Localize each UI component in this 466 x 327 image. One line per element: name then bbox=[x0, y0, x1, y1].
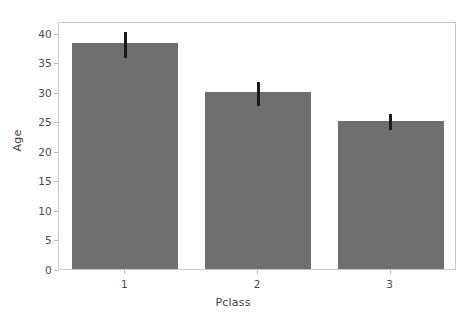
y-axis-tick-label: 25 bbox=[38, 116, 52, 128]
y-axis-tick-mark bbox=[54, 34, 58, 35]
y-axis-tick-label: 40 bbox=[38, 28, 52, 40]
error-bar bbox=[257, 82, 260, 106]
error-bar bbox=[124, 32, 127, 58]
y-axis-tick-label: 10 bbox=[38, 205, 52, 217]
y-axis-tick-marks bbox=[54, 0, 59, 327]
y-axis-tick-mark bbox=[54, 152, 58, 153]
x-axis-tick-mark bbox=[124, 270, 125, 274]
x-axis-tick-label: 1 bbox=[121, 278, 128, 290]
y-axis-tick-mark bbox=[54, 211, 58, 212]
x-axis-tick-mark bbox=[257, 270, 258, 274]
bar bbox=[338, 121, 444, 269]
y-axis-tick-label: 20 bbox=[38, 146, 52, 158]
y-axis-tick-mark bbox=[54, 240, 58, 241]
y-axis-tick-mark bbox=[54, 181, 58, 182]
bars-layer bbox=[59, 23, 455, 269]
plot-area bbox=[58, 22, 456, 270]
y-axis-tick-label: 5 bbox=[45, 234, 52, 246]
y-axis-tick-label: 15 bbox=[38, 175, 52, 187]
error-bar bbox=[389, 114, 392, 131]
y-axis-tick-mark bbox=[54, 63, 58, 64]
y-axis-tick-mark bbox=[54, 270, 58, 271]
bar bbox=[72, 43, 178, 269]
bar bbox=[205, 92, 311, 269]
x-axis-tick-mark bbox=[390, 270, 391, 274]
y-axis-tick-mark bbox=[54, 122, 58, 123]
x-axis-tick-label: 3 bbox=[386, 278, 393, 290]
x-axis-tick-label: 2 bbox=[254, 278, 261, 290]
y-axis-tick-label: 30 bbox=[38, 87, 52, 99]
y-axis-tick-mark bbox=[54, 93, 58, 94]
bar-chart-figure: 0510152025303540 123 Pclass Age bbox=[0, 0, 466, 327]
y-axis-label: Age bbox=[11, 111, 24, 171]
figure-top-margin bbox=[0, 0, 466, 3]
y-axis-tick-label: 0 bbox=[45, 264, 52, 276]
y-axis-tick-label: 35 bbox=[38, 57, 52, 69]
x-axis-label: Pclass bbox=[0, 296, 466, 309]
y-axis-tick-labels: 0510152025303540 bbox=[26, 0, 52, 327]
